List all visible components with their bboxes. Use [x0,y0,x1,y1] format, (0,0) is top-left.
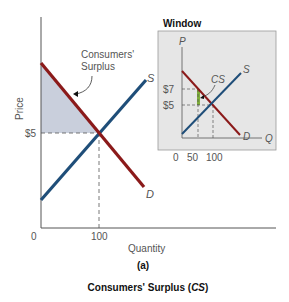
origin-label: 0 [31,231,37,242]
caption-main: Consumers' Surplus ( [88,282,192,293]
window-inset: Window P Q S D CS $7 $5 0 50 100 [158,18,276,163]
inset-q-tick-50: 50 [187,152,199,163]
y-axis-title: Price [14,97,25,120]
price-tick-label: $5 [25,128,37,139]
figure-caption: Consumers' Surplus (CS) [88,282,209,293]
panel-label: (a) [137,260,149,271]
demand-label: D [146,188,154,200]
supply-label: S [147,72,155,84]
annotation-arrow-icon [76,76,92,94]
inset-q-tick-0: 0 [173,152,179,163]
inset-p-label: P [179,36,186,47]
inset-supply-label: S [243,64,250,75]
consumers-surplus-diagram: S D $5 0 100 Quantity Price Consumers' S… [0,0,289,302]
inset-q-tick-100: 100 [206,152,223,163]
inset-q-label: Q [265,133,273,144]
arrowhead-icon [73,91,78,97]
inset-price-tick-5: $5 [163,100,175,111]
window-box [158,31,276,150]
quantity-tick-label: 100 [91,231,108,242]
annotation-surplus: Surplus [81,61,115,72]
x-axis-title: Quantity [128,243,165,254]
caption-italic: CS [191,282,205,293]
inset-demand-label: D [243,131,250,142]
caption-end: ) [205,282,208,293]
window-title: Window [163,18,201,29]
inset-price-tick-7: $7 [163,84,175,95]
annotation-consumers: Consumers' [81,49,134,60]
inset-cs-label: CS [211,74,225,85]
